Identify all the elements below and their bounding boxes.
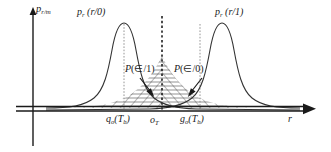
curve-label-given-0: pr (r/0) bbox=[77, 7, 105, 18]
signal-detection-figure: pr/m pr (r/0) pr (r/1) P(∈/1) P(∈/0) qo(… bbox=[0, 0, 331, 152]
y-axis-label: pr/m bbox=[36, 4, 51, 16]
figure-canvas bbox=[0, 0, 331, 152]
x-tick-label-threshold: oT bbox=[150, 115, 159, 126]
error-probability-label-given-0: P(∈/0) bbox=[174, 64, 204, 74]
x-axis-label: r bbox=[288, 114, 292, 124]
x-axis-arrowhead bbox=[303, 103, 316, 114]
error-probability-label-given-1: P(∈/1) bbox=[125, 64, 155, 74]
x-tick-label-g: go(Tb) bbox=[180, 114, 204, 125]
curve-label-given-1: pr (r/1) bbox=[215, 7, 243, 18]
x-tick-label-q: qo(Tb) bbox=[106, 114, 130, 125]
